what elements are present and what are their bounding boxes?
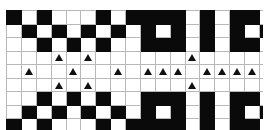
grid-cell-empty — [66, 24, 81, 38]
grid-cell-filled — [21, 24, 36, 38]
grid-cell-empty — [140, 51, 155, 65]
grid-cell-filled — [155, 119, 170, 130]
grid-cell-filled — [245, 92, 260, 106]
grid-cell-filled — [170, 11, 185, 25]
grid-row — [7, 11, 264, 25]
grid-cell-filled — [170, 92, 185, 106]
grid-row — [7, 65, 264, 79]
grid-cell-filled — [96, 11, 111, 25]
triangle-glyph — [69, 68, 77, 75]
grid-cell-empty — [259, 78, 263, 92]
grid-cell-empty — [259, 65, 263, 79]
grid-cell-empty — [259, 11, 263, 25]
grid-cell-marker — [140, 65, 155, 79]
triangle-marker-icon — [156, 65, 170, 78]
triangle-glyph — [144, 68, 152, 75]
grid-cell-empty — [96, 51, 111, 65]
grid-cell-empty — [155, 78, 170, 92]
grid-cell-marker — [200, 65, 215, 79]
grid-cell-empty — [51, 38, 66, 52]
grid-row — [7, 51, 264, 65]
grid-cell-filled — [51, 24, 66, 38]
grid-cell-empty — [81, 38, 96, 52]
grid-cell-filled — [155, 38, 170, 52]
grid-cell-empty — [245, 105, 260, 119]
grid-cell-filled — [230, 38, 245, 52]
grid-container — [6, 10, 256, 123]
grid-cell-empty — [51, 11, 66, 25]
grid-cell-filled — [230, 92, 245, 106]
grid-cell-filled — [170, 105, 185, 119]
triangle-marker-icon — [230, 65, 244, 78]
grid-cell-filled — [140, 105, 155, 119]
grid-cell-filled — [200, 38, 215, 52]
grid-cell-empty — [7, 65, 22, 79]
grid-cell-filled — [96, 38, 111, 52]
grid-cell-marker — [185, 78, 200, 92]
grid-cell-empty — [111, 92, 126, 106]
triangle-glyph — [188, 82, 196, 89]
grid-cell-empty — [81, 65, 96, 79]
grid-cell-empty — [66, 11, 81, 25]
triangle-glyph — [188, 54, 196, 61]
grid-cell-empty — [66, 51, 81, 65]
grid-cell-filled — [170, 24, 185, 38]
grid-cell-empty — [126, 105, 141, 119]
grid-cell-marker — [185, 51, 200, 65]
grid-cell-empty — [21, 78, 36, 92]
grid-cell-empty — [36, 24, 51, 38]
grid-cell-empty — [21, 92, 36, 106]
triangle-glyph — [233, 68, 241, 75]
grid-cell-empty — [155, 51, 170, 65]
grid-cell-empty — [215, 78, 230, 92]
grid-cell-filled — [140, 38, 155, 52]
grid-row — [7, 38, 264, 52]
grid-cell-marker — [81, 51, 96, 65]
grid-cell-filled — [200, 11, 215, 25]
grid-cell-empty — [111, 119, 126, 130]
triangle-marker-icon — [52, 79, 66, 92]
grid-cell-empty — [81, 92, 96, 106]
grid-cell-empty — [7, 51, 22, 65]
grid-cell-empty — [7, 105, 22, 119]
grid-cell-empty — [170, 78, 185, 92]
grid-cell-filled — [230, 119, 245, 130]
triangle-marker-icon — [171, 65, 185, 78]
grid-cell-empty — [215, 11, 230, 25]
grid-cell-empty — [185, 11, 200, 25]
grid-cell-empty — [51, 92, 66, 106]
triangle-glyph — [55, 82, 63, 89]
grid-row — [7, 78, 264, 92]
grid-cell-filled — [140, 92, 155, 106]
grid-cell-empty — [7, 92, 22, 106]
triangle-glyph — [159, 68, 167, 75]
grid-cell-empty — [66, 78, 81, 92]
grid-cell-marker — [155, 65, 170, 79]
grid-cell-empty — [185, 92, 200, 106]
grid-cell-empty — [21, 119, 36, 130]
grid-cell-filled — [259, 24, 263, 38]
grid-cell-empty — [259, 119, 263, 130]
triangle-glyph — [25, 68, 33, 75]
pattern-grid — [6, 10, 263, 130]
grid-cell-empty — [66, 119, 81, 130]
grid-cell-empty — [185, 105, 200, 119]
grid-cell-empty — [215, 105, 230, 119]
triangle-glyph — [203, 68, 211, 75]
grid-cell-empty — [140, 78, 155, 92]
grid-cell-filled — [66, 38, 81, 52]
grid-cell-empty — [96, 105, 111, 119]
grid-cell-empty — [245, 24, 260, 38]
grid-cell-filled — [230, 105, 245, 119]
grid-cell-filled — [230, 11, 245, 25]
grid-cell-empty — [81, 119, 96, 130]
grid-cell-empty — [7, 24, 22, 38]
grid-cell-empty — [126, 24, 141, 38]
grid-row — [7, 92, 264, 106]
triangle-marker-icon — [52, 52, 66, 65]
grid-cell-filled — [81, 105, 96, 119]
grid-cell-filled — [96, 119, 111, 130]
grid-cell-marker — [245, 65, 260, 79]
grid-cell-filled — [259, 105, 263, 119]
grid-cell-filled — [81, 24, 96, 38]
